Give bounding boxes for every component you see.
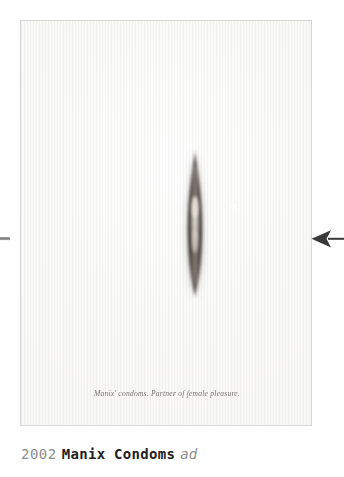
light-speck	[232, 204, 236, 208]
caption-year: 2002	[21, 446, 57, 462]
lens-aperture-subject	[163, 149, 227, 299]
next-arrow-button[interactable]	[310, 228, 344, 250]
previous-arrow-button[interactable]	[0, 228, 22, 250]
caption: 2002Manix Condomsad	[21, 445, 197, 463]
caption-kind: ad	[180, 446, 197, 462]
poster-tagline: Manix' condoms. Partner of female pleasu…	[21, 389, 312, 398]
page-root: Manix' condoms. Partner of female pleasu…	[0, 0, 344, 477]
poster-image[interactable]: Manix' condoms. Partner of female pleasu…	[20, 20, 312, 426]
caption-brand[interactable]: Manix Condoms	[62, 446, 175, 462]
